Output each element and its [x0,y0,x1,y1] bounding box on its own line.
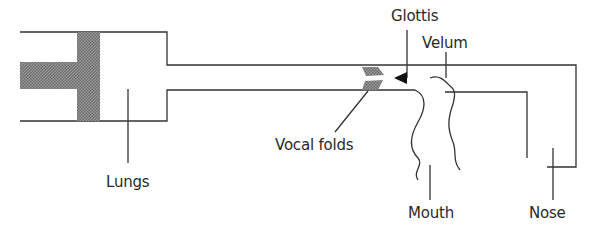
glottis-arrow-icon [394,72,407,84]
tongue-curve [411,90,424,180]
label-glottis: Glottis [391,9,438,24]
nasal-inner-wall [445,92,527,158]
label-vocal-folds: Vocal folds [275,138,353,153]
label-velum: Velum [422,36,468,51]
vocal-fold-upper [362,67,384,76]
piston-plate [77,32,100,121]
label-mouth: Mouth [408,206,454,221]
velum-curve [430,77,460,170]
piston-stem [20,62,77,89]
speech-production-diagram: Glottis Velum Vocal folds Lungs Mouth No… [0,0,598,235]
diagram-canvas [0,0,598,235]
vocal-fold-lower [362,80,383,90]
label-lungs: Lungs [106,175,149,190]
label-nose: Nose [529,206,566,221]
